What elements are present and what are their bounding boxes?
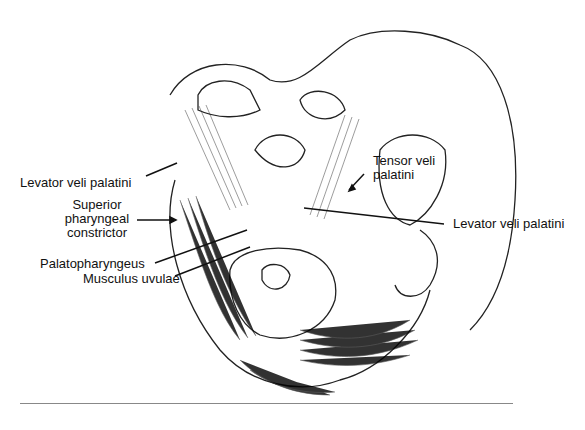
label-tensor-veli-palatini: Tensor veli palatini [373, 154, 435, 182]
label-line: Tensor veli [373, 154, 435, 168]
label-levator-veli-palatini-left: Levator veli palatini [20, 176, 131, 190]
label-line: pharyngeal [57, 212, 137, 226]
label-musculus-uvulae: Musculus uvulae [83, 272, 180, 286]
label-line: constrictor [57, 226, 137, 240]
label-levator-veli-palatini-right: Levator veli palatini [453, 217, 564, 231]
label-palatopharyngeus: Palatopharyngeus [40, 257, 145, 271]
anatomy-figure: Levator veli palatini Superior pharyngea… [0, 0, 585, 430]
label-superior-pharyngeal-constrictor: Superior pharyngeal constrictor [57, 198, 137, 240]
label-line: Superior [57, 198, 137, 212]
bottom-divider [20, 403, 513, 404]
label-line: palatini [373, 168, 435, 182]
